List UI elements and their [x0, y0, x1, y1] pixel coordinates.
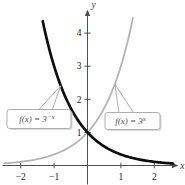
- x-axis-label: x: [179, 161, 185, 171]
- x-tick-label: −1: [49, 172, 59, 182]
- callout-tail: [115, 84, 134, 113]
- x-tick-label: 2: [152, 172, 157, 182]
- callout-tail: [38, 86, 61, 111]
- curve-f-of-x-3-to-neg-x: [43, 21, 173, 163]
- y-tick-label: 4: [77, 28, 82, 38]
- x-tick-label: 1: [119, 172, 124, 182]
- x-tick-label: −2: [16, 172, 26, 182]
- exponential-functions-chart: xy−2−1121234f(x) = 3−xf(x) = 3x: [0, 0, 185, 185]
- y-tick-label: 3: [77, 61, 82, 71]
- callout-f-3-x: f(x) = 3x: [105, 84, 162, 131]
- y-axis-arrowhead-icon: [85, 10, 90, 17]
- curve-f-of-x-3-to-x: [4, 18, 133, 163]
- y-axis-label: y: [90, 0, 96, 10]
- y-tick-label: 2: [77, 95, 82, 105]
- y-tick-label: 1: [77, 128, 82, 138]
- callout-text: f(x) = 3x: [115, 115, 147, 127]
- exponential-graph-figure: xy−2−1121234f(x) = 3−xf(x) = 3x: [0, 0, 185, 185]
